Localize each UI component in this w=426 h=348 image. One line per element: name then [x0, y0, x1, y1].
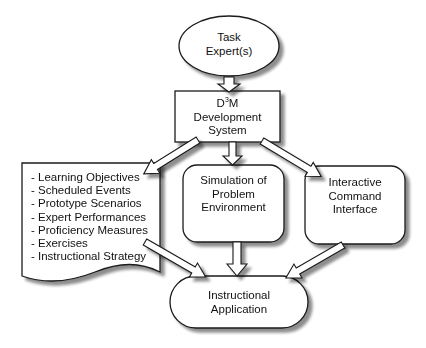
document-item: - Scheduled Events — [31, 184, 148, 197]
d3m-prefix: D — [217, 97, 225, 109]
d3m-label: D3M Development System — [175, 97, 280, 138]
document-item: - Proficiency Measures — [31, 224, 148, 237]
arrow-task-to-d3m — [218, 77, 240, 92]
document-item: - Expert Performances — [31, 211, 148, 224]
simulation-line3: Environment — [183, 201, 284, 215]
interface-line2: Command — [305, 190, 405, 204]
simulation-label: Simulation of Problem Environment — [183, 174, 284, 215]
d3m-line3: System — [175, 124, 280, 138]
document-item: - Exercises — [31, 237, 148, 250]
d3m-title: D3M — [175, 97, 280, 111]
interface-line1: Interactive — [305, 176, 405, 190]
document-item: - Instructional Strategy — [31, 250, 148, 263]
document-item: - Prototype Scenarios — [31, 197, 148, 210]
application-line2: Application — [170, 303, 308, 317]
task-expert-line1: Task — [189, 31, 269, 45]
d3m-line2: Development — [175, 111, 280, 125]
simulation-line1: Simulation of — [183, 174, 284, 188]
interface-label: Interactive Command Interface — [305, 176, 405, 217]
task-expert-line2: Expert(s) — [189, 45, 269, 59]
document-item: - Learning Objectives — [31, 171, 148, 184]
arrow-d3m-to-simulation — [223, 142, 242, 165]
application-line1: Instructional — [170, 289, 308, 303]
application-label: Instructional Application — [170, 289, 308, 316]
arrow-simulation-to-application — [227, 242, 247, 276]
d3m-suffix: M — [229, 97, 239, 109]
arrow-interface-to-application — [282, 238, 347, 285]
interface-line3: Interface — [305, 203, 405, 217]
task-expert-label: Task Expert(s) — [189, 31, 269, 58]
document-items: - Learning Objectives - Scheduled Events… — [31, 171, 148, 263]
simulation-line2: Problem — [183, 188, 284, 202]
